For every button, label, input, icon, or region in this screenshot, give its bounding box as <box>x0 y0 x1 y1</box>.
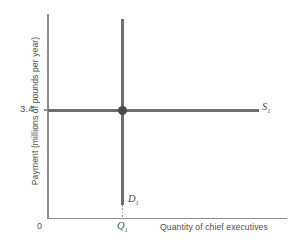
demand-symbol: D <box>128 193 136 204</box>
x-axis-tick-label-q1: Q1 <box>117 220 128 233</box>
supply-subscript: 1 <box>267 107 270 114</box>
demand-curve-label: D1 <box>128 193 139 206</box>
origin-label: 0 <box>37 221 42 231</box>
supply-curve-label: S1 <box>262 101 271 114</box>
demand-subscript: 1 <box>136 199 139 206</box>
supply-curve-s1 <box>48 109 259 112</box>
quantity-subscript: 1 <box>125 226 128 233</box>
x-axis-label: Quantity of chief executives <box>160 222 268 232</box>
quantity-symbol: Q <box>117 220 125 231</box>
equilibrium-point-marker <box>118 106 127 115</box>
y-axis-tick-label-3-4: 3.4 <box>20 103 34 114</box>
y-axis <box>47 14 49 219</box>
x-axis <box>47 218 287 220</box>
economics-supply-demand-figure: Payment (millions of pounds per year) 3.… <box>0 0 291 245</box>
equilibrium-quantity-dropline <box>122 205 123 218</box>
